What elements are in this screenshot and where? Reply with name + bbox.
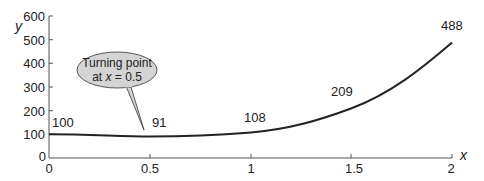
- x-tick-label: 1.5: [345, 161, 363, 176]
- y-tick-label: 200: [23, 104, 45, 119]
- y-tick-label: 400: [23, 56, 45, 71]
- y-tick-label: 300: [23, 80, 45, 95]
- y-tick-label: 600: [23, 9, 45, 24]
- x-ticks: [150, 154, 452, 158]
- x-tick-label: 0.5: [141, 161, 159, 176]
- callout-text-line1: Turning point: [82, 56, 152, 70]
- turning-point-callout: Turning point at x = 0.5: [77, 52, 157, 130]
- point-label: 108: [244, 110, 266, 125]
- x-axis-label: x: [459, 147, 468, 163]
- point-label: 91: [152, 115, 166, 130]
- chart: 600 500 400 300 200 100 0 y 0 0.5 1 1.5 …: [0, 0, 484, 181]
- y-tick-labels: 600 500 400 300 200 100 0: [23, 9, 46, 164]
- x-tick-label: 0: [45, 161, 52, 176]
- x-tick-label: 2: [447, 161, 454, 176]
- y-tick-label: 500: [23, 33, 45, 48]
- y-tick-label: 100: [23, 127, 45, 142]
- point-label: 488: [441, 18, 463, 33]
- x-tick-labels: 0 0.5 1 1.5 2: [45, 161, 454, 176]
- callout-text-line2: at x = 0.5: [92, 70, 142, 84]
- point-label: 100: [52, 115, 74, 130]
- point-label: 209: [331, 84, 353, 99]
- x-tick-label: 1: [247, 161, 254, 176]
- y-axis-label: y: [14, 18, 23, 34]
